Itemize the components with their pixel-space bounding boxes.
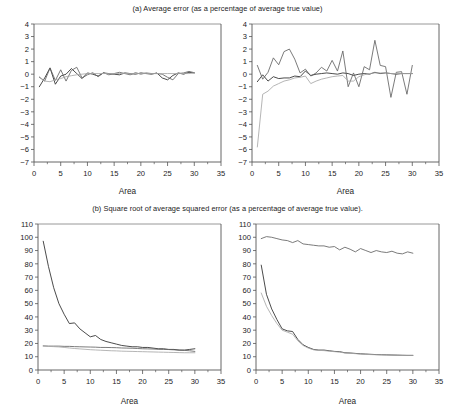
- plot-frame: [252, 24, 439, 162]
- series-line-light: [261, 293, 413, 355]
- x-tick-label: 30: [190, 169, 198, 178]
- x-tick-label: 20: [137, 169, 145, 178]
- y-tick-label: −5: [20, 133, 29, 142]
- y-tick-label: 110: [21, 220, 33, 229]
- panel-b: (b) Square root of average squared error…: [0, 200, 455, 415]
- y-tick-label: −3: [238, 108, 247, 117]
- y-tick-label: 4: [243, 20, 247, 29]
- x-tick-label: 25: [163, 169, 171, 178]
- y-tick-label: 2: [25, 45, 29, 54]
- series-line-light: [257, 73, 412, 147]
- y-tick-label: 1: [25, 57, 29, 66]
- y-tick-label: −1: [238, 82, 247, 91]
- x-tick-label: 35: [435, 169, 443, 178]
- y-tick-label: −4: [20, 120, 29, 129]
- y-tick-label: 70: [243, 273, 251, 282]
- y-tick-label: 30: [243, 326, 251, 335]
- y-tick-label: 2: [243, 45, 247, 54]
- x-tick-label: 10: [86, 377, 94, 386]
- plot-frame: [34, 24, 221, 162]
- x-tick-label: 30: [408, 169, 416, 178]
- plot-svg: 010203040506070809010011005101520253035A…: [8, 216, 229, 406]
- y-tick-label: 3: [243, 32, 247, 41]
- y-tick-label: 3: [25, 32, 29, 41]
- series-line-top-mid: [261, 237, 413, 254]
- x-tick-label: 35: [217, 169, 225, 178]
- series-line-dark: [261, 265, 413, 355]
- y-tick-label: −3: [20, 108, 29, 117]
- y-tick-label: 50: [243, 299, 251, 308]
- y-tick-label: 0: [25, 70, 29, 79]
- y-tick-label: 4: [25, 20, 29, 29]
- chart-panel-a-left: −7−6−5−4−3−2−10123405101520253035Area: [8, 16, 229, 196]
- series-line-mid: [257, 40, 412, 97]
- x-tick-label: 0: [36, 377, 40, 386]
- chart-panel-b-right: 010203040506070809010011005101520253035A…: [226, 216, 447, 406]
- plot-frame: [256, 224, 439, 370]
- y-axis: −7−6−5−4−3−2−101234: [20, 20, 34, 167]
- x-tick-label: 0: [32, 169, 36, 178]
- x-tick-label: 25: [381, 169, 389, 178]
- panel-b-title: (b) Square root of average squared error…: [0, 204, 455, 213]
- y-tick-label: 100: [238, 233, 251, 242]
- y-tick-label: 80: [243, 260, 251, 269]
- x-tick-label: 35: [435, 377, 443, 386]
- y-tick-label: 0: [243, 70, 247, 79]
- x-axis: 05101520253035: [254, 370, 443, 386]
- y-tick-label: 10: [243, 352, 251, 361]
- x-tick-label: 5: [277, 169, 281, 178]
- x-tick-label: 10: [83, 169, 91, 178]
- y-tick-label: −2: [238, 95, 247, 104]
- x-axis-label: Area: [337, 187, 355, 196]
- plot-svg: −7−6−5−4−3−2−10123405101520253035Area: [226, 16, 447, 196]
- chart-panel-a-right: −7−6−5−4−3−2−10123405101520253035Area: [226, 16, 447, 196]
- x-axis: 05101520253035: [36, 370, 225, 386]
- series-group: [39, 67, 194, 86]
- y-tick-label: 60: [25, 286, 33, 295]
- x-tick-label: 15: [330, 377, 338, 386]
- y-tick-label: 100: [20, 233, 33, 242]
- y-tick-label: −7: [20, 158, 29, 167]
- x-tick-label: 0: [254, 377, 258, 386]
- y-tick-label: 10: [25, 352, 33, 361]
- x-tick-label: 30: [191, 377, 199, 386]
- x-tick-label: 15: [110, 169, 118, 178]
- series-group: [43, 241, 195, 353]
- series-line-mid: [43, 346, 195, 352]
- y-tick-label: −2: [20, 95, 29, 104]
- y-tick-label: 0: [247, 366, 251, 375]
- x-tick-label: 35: [217, 377, 225, 386]
- y-axis: −7−6−5−4−3−2−101234: [238, 20, 252, 167]
- y-tick-label: −7: [238, 158, 247, 167]
- x-tick-label: 10: [304, 377, 312, 386]
- x-tick-label: 20: [356, 377, 364, 386]
- y-tick-label: 30: [25, 326, 33, 335]
- y-tick-label: 0: [29, 366, 33, 375]
- x-tick-label: 15: [328, 169, 336, 178]
- y-tick-label: 60: [243, 286, 251, 295]
- y-tick-label: 40: [25, 313, 33, 322]
- x-tick-label: 10: [301, 169, 309, 178]
- series-line-dark: [43, 241, 195, 350]
- y-tick-label: −1: [20, 82, 29, 91]
- y-tick-label: 80: [25, 260, 33, 269]
- y-tick-label: 70: [25, 273, 33, 282]
- x-tick-label: 30: [409, 377, 417, 386]
- x-axis-label: Area: [339, 397, 357, 406]
- y-tick-label: −6: [238, 145, 247, 154]
- x-axis-label: Area: [119, 187, 137, 196]
- x-tick-label: 5: [59, 169, 63, 178]
- x-axis: 05101520253035: [250, 162, 443, 178]
- y-axis: 0102030405060708090100110: [20, 220, 38, 375]
- y-tick-label: 110: [239, 220, 251, 229]
- y-tick-label: 40: [243, 313, 251, 322]
- x-axis-label: Area: [121, 397, 139, 406]
- x-tick-label: 15: [112, 377, 120, 386]
- y-tick-label: −4: [238, 120, 247, 129]
- y-tick-label: −5: [238, 133, 247, 142]
- y-tick-label: −6: [20, 145, 29, 154]
- y-tick-label: 1: [243, 57, 247, 66]
- x-tick-label: 5: [280, 377, 284, 386]
- y-tick-label: 50: [25, 299, 33, 308]
- series-line-dark: [39, 68, 194, 87]
